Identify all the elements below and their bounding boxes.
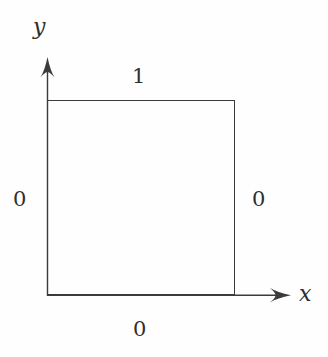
x-axis-label: x — [299, 283, 311, 305]
unit-square-domain — [47, 100, 235, 295]
y-axis-label: y — [33, 16, 45, 38]
boundary-label-top: 1 — [132, 66, 145, 87]
y-axis-arrowhead — [40, 57, 54, 78]
boundary-label-right: 0 — [252, 189, 265, 210]
boundary-label-left: 0 — [13, 189, 26, 210]
boundary-label-bottom: 0 — [133, 319, 146, 340]
x-axis-arrowhead — [270, 288, 291, 302]
figure-canvas: 1 0 0 0 y x — [0, 0, 328, 357]
